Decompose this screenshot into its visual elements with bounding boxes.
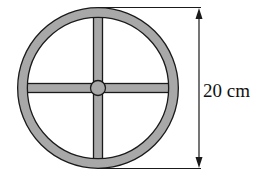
wheel [22,12,174,164]
hub [91,81,106,96]
arrow-down-icon [196,157,203,168]
arrow-up-icon [196,8,203,19]
dimension-label: 20 cm [203,80,250,102]
